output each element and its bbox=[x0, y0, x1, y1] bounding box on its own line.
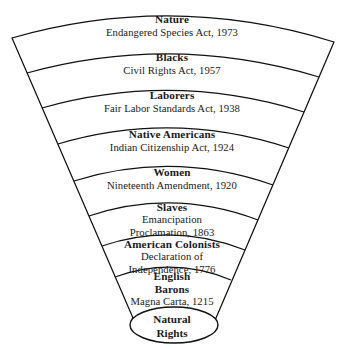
core-label-line2: Rights bbox=[0, 327, 344, 341]
band-arc-4 bbox=[74, 166, 273, 185]
band-arc-3 bbox=[58, 128, 289, 148]
fan-right-edge bbox=[216, 42, 334, 318]
fan-diagram: Nature Endangered Species Act, 1973 Blac… bbox=[0, 0, 344, 350]
band-arc-outer bbox=[12, 16, 334, 42]
core-label-line1: Natural bbox=[0, 313, 344, 327]
band-arc-7 bbox=[115, 267, 231, 280]
band-arc-5 bbox=[89, 203, 258, 220]
band-arc-1 bbox=[27, 54, 319, 77]
fan-left-edge bbox=[12, 38, 133, 318]
band-arc-2 bbox=[42, 90, 304, 112]
fan-shape-svg bbox=[0, 0, 344, 350]
band-arc-6 bbox=[102, 235, 245, 250]
